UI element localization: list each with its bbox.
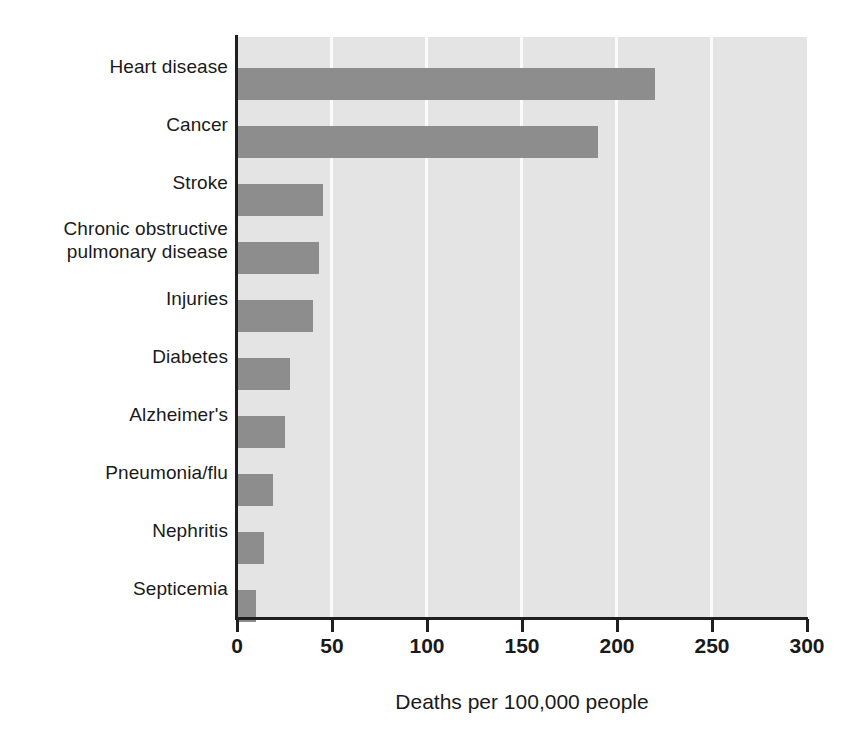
category-label-alzheimers: Alzheimer's <box>0 403 228 426</box>
bar-chart: Heart disease Cancer Stroke Chronic obst… <box>0 0 854 748</box>
x-tick-label-0: 0 <box>231 634 243 658</box>
gridline-50 <box>330 37 333 617</box>
category-label-heart-disease: Heart disease <box>0 55 228 78</box>
category-label-cancer: Cancer <box>0 113 228 136</box>
x-tick-300 <box>806 619 809 632</box>
x-tick-50 <box>331 619 334 632</box>
x-tick-label-150: 150 <box>504 634 539 658</box>
bar-alzheimers[interactable] <box>237 416 285 448</box>
gridline-250 <box>710 37 713 617</box>
x-tick-0 <box>236 619 239 632</box>
category-label-septicemia: Septicemia <box>0 577 228 600</box>
gridline-100 <box>425 37 428 617</box>
x-tick-label-300: 300 <box>789 634 824 658</box>
x-tick-label-200: 200 <box>599 634 634 658</box>
bar-nephritis[interactable] <box>237 532 264 564</box>
bar-injuries[interactable] <box>237 300 313 332</box>
bar-heart-disease[interactable] <box>237 68 655 100</box>
category-label-pneumonia-flu: Pneumonia/flu <box>0 461 228 484</box>
bar-pneumonia-flu[interactable] <box>237 474 273 506</box>
category-label-nephritis: Nephritis <box>0 519 228 542</box>
bar-stroke[interactable] <box>237 184 323 216</box>
x-tick-100 <box>426 619 429 632</box>
x-tick-label-100: 100 <box>409 634 444 658</box>
x-tick-250 <box>711 619 714 632</box>
x-tick-label-50: 50 <box>320 634 343 658</box>
category-label-diabetes: Diabetes <box>0 345 228 368</box>
category-label-stroke: Stroke <box>0 171 228 194</box>
category-label-injuries: Injuries <box>0 287 228 310</box>
x-axis-title: Deaths per 100,000 people <box>237 690 807 714</box>
bar-cancer[interactable] <box>237 126 598 158</box>
x-tick-150 <box>521 619 524 632</box>
category-axis: Heart disease Cancer Stroke Chronic obst… <box>0 37 228 617</box>
x-tick-200 <box>616 619 619 632</box>
category-label-copd: Chronic obstructive pulmonary disease <box>0 217 228 263</box>
gridline-150 <box>520 37 523 617</box>
bar-copd[interactable] <box>237 242 319 274</box>
y-axis-line <box>235 35 238 619</box>
bar-diabetes[interactable] <box>237 358 290 390</box>
plot-area <box>237 37 807 617</box>
x-tick-label-250: 250 <box>694 634 729 658</box>
gridline-200 <box>615 37 618 617</box>
